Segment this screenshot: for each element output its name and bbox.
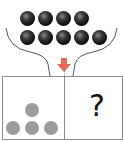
black-ball bbox=[56, 30, 71, 45]
gray-dot bbox=[44, 121, 58, 135]
panel-divider bbox=[64, 76, 65, 139]
black-ball bbox=[38, 30, 53, 45]
black-ball bbox=[56, 11, 71, 26]
black-ball bbox=[74, 30, 89, 45]
black-ball bbox=[20, 11, 35, 26]
black-ball bbox=[74, 11, 89, 26]
question-mark: ? bbox=[82, 86, 112, 126]
gray-dot bbox=[25, 103, 39, 117]
dotted-divider bbox=[64, 68, 65, 76]
black-ball bbox=[92, 30, 107, 45]
funnel-diagram: ? bbox=[0, 0, 123, 142]
gray-dot bbox=[6, 121, 20, 135]
gray-dot bbox=[25, 121, 39, 135]
black-ball bbox=[20, 30, 35, 45]
black-ball bbox=[38, 11, 53, 26]
